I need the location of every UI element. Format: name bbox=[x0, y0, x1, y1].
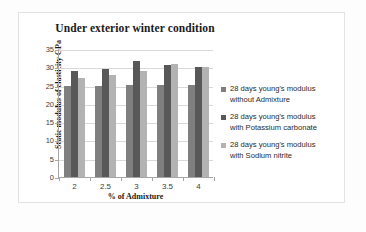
legend-swatch-icon bbox=[221, 87, 226, 92]
x-axis-tick bbox=[152, 177, 153, 181]
x-axis-tick-label: 3 bbox=[121, 182, 152, 191]
x-axis-tick-label: 4 bbox=[183, 182, 214, 191]
legend-entry[interactable]: 28 days young's moduluswith Sodium nitri… bbox=[221, 140, 343, 161]
bar-group: 2.5 bbox=[90, 50, 121, 177]
bar[interactable] bbox=[102, 69, 109, 177]
bar[interactable] bbox=[78, 78, 85, 177]
y-axis-tick-label: 20 bbox=[34, 101, 54, 109]
bar[interactable] bbox=[140, 71, 147, 177]
y-axis-tick-label: 5 bbox=[34, 156, 54, 164]
legend-label: 28 days young's modulus bbox=[230, 84, 343, 95]
bar[interactable] bbox=[133, 61, 140, 177]
chart-figure: Under exterior winter condition Static m… bbox=[0, 0, 366, 232]
bar[interactable] bbox=[95, 86, 102, 177]
x-axis-tick-label: 3.5 bbox=[152, 182, 183, 191]
bar[interactable] bbox=[157, 85, 164, 177]
y-axis-tick-label: 35 bbox=[34, 46, 54, 54]
x-axis-tick bbox=[59, 177, 60, 181]
y-axis-tick-label: 30 bbox=[34, 64, 54, 72]
x-axis-tick bbox=[121, 177, 122, 181]
bar[interactable] bbox=[202, 67, 209, 177]
legend-entry[interactable]: 28 days young's moduluswithout Admixture bbox=[221, 84, 343, 105]
legend-label: without Admixture bbox=[230, 95, 343, 106]
legend-entry[interactable]: 28 days young's moduluswith Potassium ca… bbox=[221, 112, 343, 133]
bar[interactable] bbox=[64, 86, 71, 177]
y-axis-title-container: Static modulus of elasticity GPa bbox=[30, 50, 31, 178]
x-axis-title: % of Admixture bbox=[58, 192, 213, 201]
y-axis-tick-label: 10 bbox=[34, 137, 54, 145]
bar-group: 4 bbox=[183, 50, 214, 177]
x-axis-tick bbox=[90, 177, 91, 181]
bar[interactable] bbox=[164, 65, 171, 177]
bar[interactable] bbox=[188, 85, 195, 177]
bar-group: 3 bbox=[121, 50, 152, 177]
x-axis-tick bbox=[214, 177, 215, 181]
y-axis-tick-label: 25 bbox=[34, 83, 54, 91]
legend-swatch-icon bbox=[221, 115, 226, 120]
legend-label: with Potassium carbonate bbox=[230, 123, 343, 134]
x-axis-tick-label: 2 bbox=[59, 182, 90, 191]
bar[interactable] bbox=[109, 75, 116, 177]
y-axis-tick-labels: 05101520253035 bbox=[34, 50, 54, 178]
bar[interactable] bbox=[171, 64, 178, 177]
legend-label: with Sodium nitrite bbox=[230, 151, 343, 162]
bar-group: 3.5 bbox=[152, 50, 183, 177]
y-axis-tick-label: 0 bbox=[34, 174, 54, 182]
bar[interactable] bbox=[71, 71, 78, 177]
legend-label: 28 days young's modulus bbox=[230, 140, 343, 151]
legend-label: 28 days young's modulus bbox=[230, 112, 343, 123]
plot-area: 22.533.54 bbox=[58, 50, 213, 178]
legend-swatch-icon bbox=[221, 143, 226, 148]
x-axis-tick bbox=[183, 177, 184, 181]
bar-group: 2 bbox=[59, 50, 90, 177]
bar[interactable] bbox=[195, 67, 202, 177]
chart-legend: 28 days young's moduluswithout Admixture… bbox=[221, 84, 343, 168]
bar[interactable] bbox=[126, 85, 133, 177]
y-axis-tick-label: 15 bbox=[34, 119, 54, 127]
chart-title: Under exterior winter condition bbox=[40, 22, 230, 34]
x-axis-tick-label: 2.5 bbox=[90, 182, 121, 191]
